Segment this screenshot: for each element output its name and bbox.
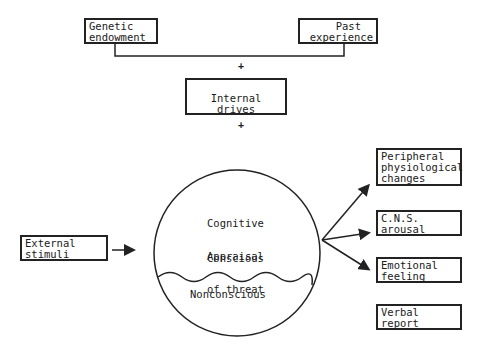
genetic-endowment-box: Genetic endowment [84, 18, 158, 44]
plus-sign: + [238, 119, 244, 130]
label: arousal [381, 224, 457, 235]
verbal-report-box: Verbal report [376, 304, 462, 330]
peripheral-changes-box: Peripheral physiological changes [376, 148, 462, 186]
label: Internal drives [211, 92, 262, 115]
label: feeling [381, 271, 457, 282]
label: Cognitive [207, 218, 264, 229]
label: endowment [89, 32, 153, 43]
label: experience [303, 32, 373, 43]
external-stimuli-box: External stimuli [20, 235, 108, 261]
conscious-label: Conscious [207, 253, 264, 264]
plus-sign: + [238, 60, 244, 71]
nonconscious-label: Nonconscious [190, 289, 266, 300]
cns-arousal-box: C.N.S. arousal [376, 210, 462, 236]
label: report [381, 318, 457, 329]
internal-drives-box: Internal drives [185, 78, 287, 115]
emotional-feeling-box: Emotional feeling [376, 257, 462, 283]
label: stimuli [25, 249, 103, 260]
label: changes [381, 173, 457, 184]
past-experience-box: Past experience [298, 18, 378, 44]
